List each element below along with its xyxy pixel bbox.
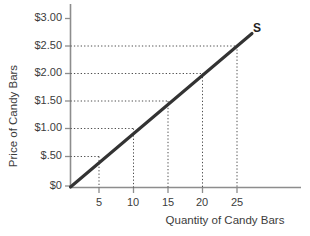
y-tick-label-3-00: $3.00	[6, 12, 62, 23]
y-axis-ticks	[65, 19, 71, 187]
y-tick-label-2-50: $2.50	[6, 40, 62, 51]
x-axis-ticks	[99, 188, 237, 194]
supply-curve-line	[71, 34, 253, 188]
x-axis-title: Quantity of Candy Bars	[140, 214, 310, 226]
x-tick-label-5: 5	[84, 197, 114, 208]
x-tick-label-25: 25	[222, 197, 252, 208]
supply-curve-label: S	[253, 21, 261, 35]
x-tick-label-15: 15	[153, 197, 183, 208]
x-tick-label-10: 10	[118, 197, 148, 208]
horizontal-guide-lines	[71, 46, 238, 157]
supply-curve-chart: $3.00 $2.50 $2.00 $1.50 $1.00 $.50 $0 5 …	[0, 0, 310, 236]
y-axis-title: Price of Candy Bars	[7, 51, 19, 181]
vertical-guide-lines	[99, 46, 237, 188]
y-tick-label-0: $0	[6, 180, 62, 191]
x-tick-label-20: 20	[187, 197, 217, 208]
